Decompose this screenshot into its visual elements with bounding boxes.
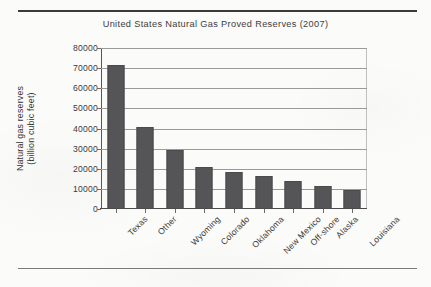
bar — [255, 176, 272, 209]
x-tick-mark — [145, 209, 146, 213]
bar — [107, 65, 124, 209]
x-tick-label: Texas — [126, 214, 150, 238]
bar-slot — [249, 48, 279, 209]
x-tick-mark — [116, 209, 117, 213]
chart-figure: United States Natural Gas Proved Reserve… — [0, 0, 431, 287]
x-tick-label: Louisiana — [367, 214, 401, 248]
x-tick-mark — [234, 209, 235, 213]
bar-series — [101, 48, 367, 209]
bar — [196, 167, 213, 209]
y-axis-title-line2: (billion cubic feet) — [26, 92, 37, 164]
x-tick-mark — [293, 209, 294, 213]
bar-slot — [101, 48, 131, 209]
x-tick-label: Other — [155, 214, 178, 237]
x-tick-label: Wyoming — [189, 214, 222, 247]
bar-slot — [160, 48, 190, 209]
bar-slot — [131, 48, 161, 209]
bar — [166, 150, 183, 209]
chart-title: United States Natural Gas Proved Reserve… — [0, 19, 431, 29]
bar — [344, 190, 361, 209]
y-axis-title: Natural gas reserves (billion cubic feet… — [13, 48, 39, 209]
y-tick-mark — [97, 209, 101, 210]
x-tick-label: Off-shore — [308, 214, 342, 248]
bar-slot — [219, 48, 249, 209]
bar — [137, 127, 154, 210]
y-axis-title-line1: Natural gas reserves — [15, 86, 26, 171]
bar-slot — [337, 48, 367, 209]
top-horizontal-rule — [18, 10, 417, 12]
x-tick-mark — [175, 209, 176, 213]
bar — [225, 172, 242, 209]
x-axis-line — [100, 208, 367, 209]
y-axis-title-container: Natural gas reserves (billion cubic feet… — [44, 48, 70, 209]
bottom-horizontal-rule — [18, 268, 417, 269]
x-tick-label: New Mexico — [281, 214, 323, 256]
x-tick-label: Alaska — [334, 214, 360, 240]
bar — [285, 181, 302, 209]
x-tick-mark — [352, 209, 353, 213]
plot-area — [101, 48, 367, 209]
bar-slot — [308, 48, 338, 209]
x-tick-mark — [323, 209, 324, 213]
x-tick-label: Colorado — [219, 214, 252, 247]
x-tick-mark — [204, 209, 205, 213]
bar — [314, 186, 331, 209]
bar-slot — [190, 48, 220, 209]
bar-slot — [278, 48, 308, 209]
x-tick-label: Oklahoma — [249, 214, 285, 250]
x-tick-mark — [264, 209, 265, 213]
